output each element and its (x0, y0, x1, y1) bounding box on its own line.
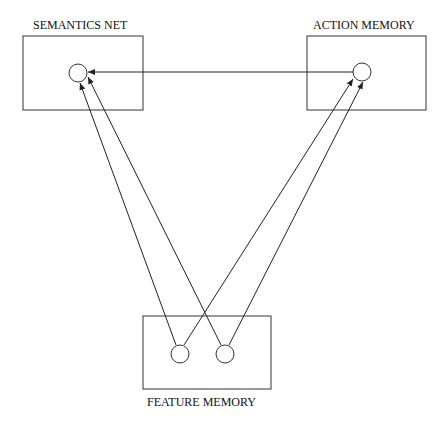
feature-node-2 (216, 345, 234, 363)
edge-feature2-to-semantics (88, 77, 221, 345)
edge-feature2-to-action (229, 82, 363, 345)
feature-node-1 (171, 345, 189, 363)
edge-feature1-to-action (184, 79, 353, 345)
diagram-canvas (0, 0, 445, 421)
semantics-net-label: SEMANTICS NET (33, 18, 127, 33)
action-memory-label: ACTION MEMORY (313, 18, 415, 33)
edge-feature1-to-semantics (80, 83, 176, 345)
feature-memory-box (143, 316, 271, 389)
semantics-node (69, 64, 87, 82)
feature-memory-label: FEATURE MEMORY (147, 395, 256, 410)
action-node (353, 63, 371, 81)
